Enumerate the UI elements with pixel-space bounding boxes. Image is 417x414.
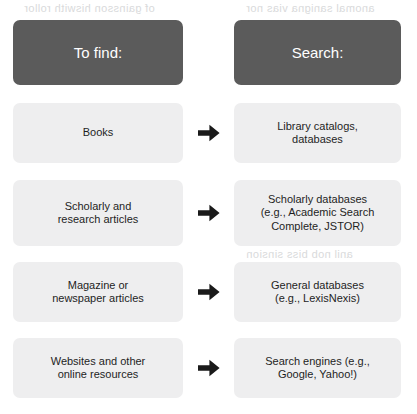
cell-to-find: Websites and other online resources [13, 338, 183, 398]
cell-line: Library catalogs, [277, 120, 358, 132]
cell-line: Search engines (e.g., [265, 355, 370, 367]
table-row: Scholarly and research articles Scholarl… [0, 180, 417, 246]
cell-to-find: Magazine or newspaper articles [13, 262, 183, 322]
cell-search: Search engines (e.g., Google, Yahoo!) [234, 338, 401, 398]
cell-line: Magazine or [68, 279, 129, 291]
cell-line: (e.g., Academic Search [261, 206, 375, 218]
cell-line: (e.g., LexisNexis) [275, 292, 360, 304]
cell-to-find: Books [13, 103, 183, 163]
arrow-right-icon [183, 262, 234, 322]
arrow-right-icon [183, 180, 234, 246]
cell-line: online resources [58, 368, 139, 380]
cell-line: newspaper articles [52, 292, 144, 304]
arrow-right-icon [183, 103, 234, 163]
cell-line: research articles [58, 213, 139, 225]
table-row: Books Library catalogs, databases [0, 103, 417, 163]
cell-line: databases [292, 133, 343, 145]
cell-search: Library catalogs, databases [234, 103, 401, 163]
cell-line: Scholarly and [65, 200, 132, 212]
cell-line: Scholarly databases [268, 193, 367, 205]
header-search: Search: [234, 20, 401, 85]
cell-line: Books [77, 126, 120, 140]
cell-line: Websites and other [51, 355, 146, 367]
table-row: Websites and other online resources Sear… [0, 338, 417, 398]
to-find-search-table: To find: Search: Books Library catalogs,… [0, 0, 417, 414]
cell-to-find: Scholarly and research articles [13, 180, 183, 246]
cell-search: General databases (e.g., LexisNexis) [234, 262, 401, 322]
cell-line: Google, Yahoo!) [278, 368, 357, 380]
cell-line: Complete, JSTOR) [271, 220, 364, 232]
table-row: Magazine or newspaper articles General d… [0, 262, 417, 322]
arrow-right-icon [183, 338, 234, 398]
header-to-find: To find: [13, 20, 183, 85]
cell-search: Scholarly databases (e.g., Academic Sear… [234, 180, 401, 246]
table-header-row: To find: Search: [0, 20, 417, 85]
cell-line: General databases [271, 279, 364, 291]
